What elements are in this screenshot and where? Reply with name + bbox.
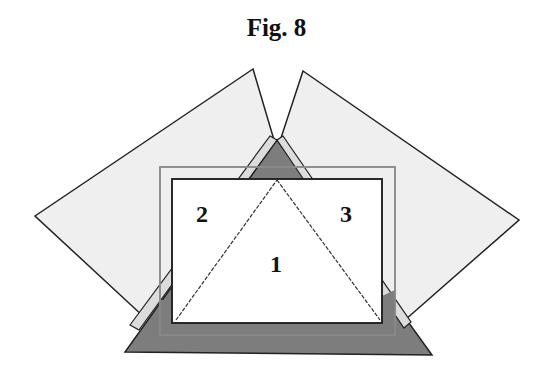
label-1: 1: [270, 251, 282, 277]
label-2: 2: [196, 201, 208, 227]
folding-diagram: 2 3 1: [0, 0, 553, 384]
label-3: 3: [340, 201, 352, 227]
